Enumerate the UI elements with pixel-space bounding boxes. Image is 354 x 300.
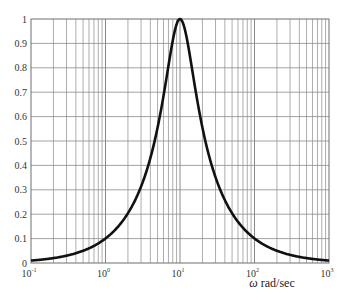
x-tick-label: 10-1 bbox=[22, 267, 37, 279]
y-tick-label: 0.7 bbox=[15, 87, 28, 98]
y-tick-label: 1 bbox=[22, 14, 27, 25]
y-tick-label: 0.6 bbox=[15, 111, 28, 122]
y-tick-label: 0.1 bbox=[15, 233, 28, 244]
x-tick-label: 100 bbox=[97, 267, 110, 279]
y-tick-label: 0.3 bbox=[15, 184, 28, 195]
grid-lines bbox=[31, 19, 329, 263]
y-axis-ticks: 00.10.20.30.40.50.60.70.80.91 bbox=[15, 14, 28, 269]
y-tick-label: 0.5 bbox=[15, 136, 28, 147]
x-tick-label: 103 bbox=[321, 267, 334, 279]
y-tick-label: 0.2 bbox=[15, 209, 28, 220]
y-tick-label: 0.4 bbox=[15, 160, 28, 171]
y-tick-label: 0.9 bbox=[15, 38, 28, 49]
bandpass-magnitude-chart: 00.10.20.30.40.50.60.70.80.91 10-1100101… bbox=[0, 0, 354, 300]
x-axis-label: ω rad/sec bbox=[249, 276, 294, 290]
y-tick-label: 0.8 bbox=[15, 62, 28, 73]
x-tick-label: 101 bbox=[172, 267, 185, 279]
y-tick-label: 0 bbox=[22, 258, 27, 269]
